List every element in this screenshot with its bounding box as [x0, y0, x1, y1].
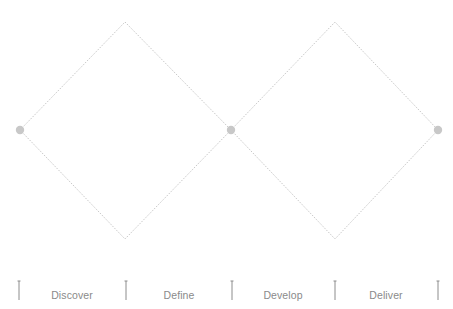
diamond-nodes: [16, 126, 442, 134]
node-dot-0: [16, 126, 24, 134]
node-dot-1: [227, 126, 235, 134]
diamond-develop-deliver: [231, 22, 438, 239]
diamond-shape-second: [231, 22, 438, 239]
double-diamond-diagram: [0, 0, 453, 309]
diamond-shape-first: [20, 22, 231, 239]
phase-label-discover: Discover: [51, 289, 93, 301]
phase-label-define: Define: [164, 289, 195, 301]
phase-label-deliver: Deliver: [369, 289, 402, 301]
node-dot-2: [434, 126, 442, 134]
diamond-discover-define: [20, 22, 231, 239]
phase-label-develop: Develop: [263, 289, 302, 301]
